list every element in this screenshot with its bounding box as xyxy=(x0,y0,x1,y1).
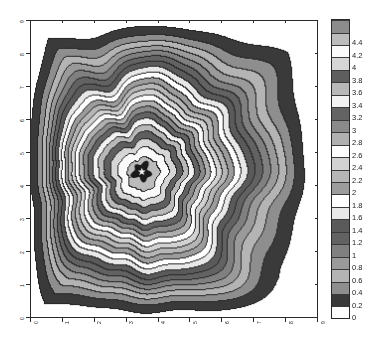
colorbar-swatch xyxy=(332,132,349,144)
y-axis-tick xyxy=(26,185,30,186)
x-axis-tick xyxy=(285,318,286,322)
y-axis-tick xyxy=(26,251,30,252)
colorbar-tick-label: 3.4 xyxy=(352,102,362,110)
colorbar-swatch xyxy=(332,120,349,132)
x-axis-tick-top xyxy=(221,20,222,23)
x-axis-label: 6 xyxy=(224,321,230,324)
x-axis-tick xyxy=(62,318,63,322)
colorbar-swatch xyxy=(332,95,349,107)
x-axis-label: 5 xyxy=(192,321,198,324)
y-axis-label: 7 xyxy=(19,86,25,89)
colorbar-tick-label: 2.6 xyxy=(352,152,362,160)
colorbar-swatch xyxy=(332,45,349,57)
y-axis-tick-right xyxy=(315,119,318,120)
y-axis-tick-right xyxy=(315,152,318,153)
colorbar-swatch xyxy=(332,107,349,119)
y-axis-tick-right xyxy=(315,20,318,21)
x-axis-label: 8 xyxy=(288,321,294,324)
colorbar-swatch xyxy=(332,294,349,306)
colorbar xyxy=(331,19,350,319)
colorbar-swatch xyxy=(332,244,349,256)
y-axis-tick-right xyxy=(315,317,318,318)
y-axis-label: 4 xyxy=(19,185,25,188)
x-axis-label: 1 xyxy=(64,321,70,324)
x-axis-label: 2 xyxy=(96,321,102,324)
y-axis-tick xyxy=(26,218,30,219)
colorbar-tick-label: 2 xyxy=(352,189,356,197)
x-axis-tick xyxy=(126,318,127,322)
colorbar-swatch xyxy=(332,82,349,94)
x-axis-tick xyxy=(221,318,222,322)
y-axis-label: 0 xyxy=(19,317,25,320)
x-axis-tick-top xyxy=(94,20,95,23)
y-axis-tick-right xyxy=(315,284,318,285)
colorbar-swatch xyxy=(332,194,349,206)
colorbar-swatch xyxy=(332,307,349,318)
y-axis-label: 2 xyxy=(19,251,25,254)
colorbar-tick-label: 1.4 xyxy=(352,227,362,235)
y-axis-tick-right xyxy=(315,185,318,186)
contour-plot-figure: 01234567890123456789 00.20.40.60.811.21.… xyxy=(0,0,385,343)
colorbar-swatch xyxy=(332,145,349,157)
colorbar-swatch xyxy=(332,207,349,219)
colorbar-swatch xyxy=(332,257,349,269)
x-axis-label: 3 xyxy=(128,321,134,324)
colorbar-tick-label: 2.8 xyxy=(352,139,362,147)
x-axis-tick xyxy=(253,318,254,322)
colorbar-tick-label: 0 xyxy=(352,314,356,322)
y-axis-tick-right xyxy=(315,251,318,252)
colorbar-swatch xyxy=(332,282,349,294)
y-axis-label: 1 xyxy=(19,284,25,287)
colorbar-swatch xyxy=(332,269,349,281)
colorbar-tick-label: 4 xyxy=(352,64,356,72)
colorbar-tick-label: 4.4 xyxy=(352,39,362,47)
colorbar-swatch xyxy=(332,219,349,231)
y-axis-tick xyxy=(26,86,30,87)
y-axis-tick xyxy=(26,317,30,318)
y-axis-tick-right xyxy=(315,53,318,54)
colorbar-swatch xyxy=(332,182,349,194)
y-axis-label: 6 xyxy=(19,119,25,122)
colorbar-tick-label: 3.2 xyxy=(352,114,362,122)
colorbar-tick-label: 2.4 xyxy=(352,164,362,172)
colorbar-tick-label: 3 xyxy=(352,127,356,135)
colorbar-tick-label: 0.8 xyxy=(352,264,362,272)
colorbar-swatch xyxy=(332,20,349,32)
colorbar-labels: 00.20.40.60.811.21.41.61.822.22.42.62.83… xyxy=(352,19,385,319)
colorbar-tick-label: 1.2 xyxy=(352,239,362,247)
colorbar-tick-label: 1.6 xyxy=(352,214,362,222)
y-axis-tick-right xyxy=(315,86,318,87)
x-axis-tick-top xyxy=(62,20,63,23)
x-axis-tick-top xyxy=(285,20,286,23)
colorbar-tick-label: 4.2 xyxy=(352,52,362,60)
colorbar-swatch xyxy=(332,157,349,169)
x-axis-tick-top xyxy=(158,20,159,23)
x-axis-tick-top xyxy=(189,20,190,23)
colorbar-tick-label: 2.2 xyxy=(352,177,362,185)
y-axis-label: 8 xyxy=(19,53,25,56)
y-axis-tick xyxy=(26,53,30,54)
x-axis-tick xyxy=(30,318,31,322)
colorbar-swatch xyxy=(332,170,349,182)
plot-area xyxy=(30,20,318,318)
colorbar-swatch xyxy=(332,33,349,45)
contour-field xyxy=(31,21,317,317)
x-axis-label: 7 xyxy=(256,321,262,324)
colorbar-tick-label: 3.8 xyxy=(352,77,362,85)
x-axis-tick-top xyxy=(253,20,254,23)
x-axis-label: 9 xyxy=(320,321,326,324)
y-axis-tick xyxy=(26,20,30,21)
colorbar-swatch xyxy=(332,232,349,244)
x-axis-tick xyxy=(94,318,95,322)
colorbar-tick-label: 0.4 xyxy=(352,289,362,297)
x-axis-tick-top xyxy=(30,20,31,23)
x-axis-tick xyxy=(158,318,159,322)
y-axis-tick xyxy=(26,119,30,120)
y-axis-label: 3 xyxy=(19,218,25,221)
y-axis-label: 5 xyxy=(19,152,25,155)
x-axis-tick-top xyxy=(126,20,127,23)
y-axis-tick xyxy=(26,152,30,153)
colorbar-tick-label: 1 xyxy=(352,252,356,260)
colorbar-tick-label: 3.6 xyxy=(352,89,362,97)
y-axis-tick xyxy=(26,284,30,285)
